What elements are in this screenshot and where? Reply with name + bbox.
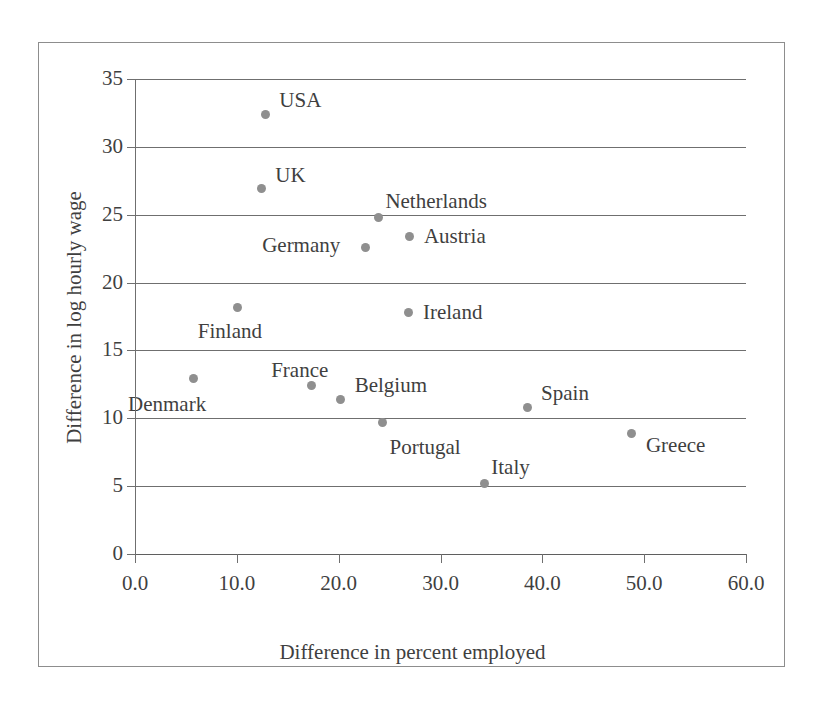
y-axis-title: Difference in log hourly wage <box>62 108 87 528</box>
x-tick-label-50: 50.0 <box>609 573 679 594</box>
y-tick-label-20: 20 <box>67 272 123 293</box>
y-axis-line <box>135 79 136 556</box>
data-point-label: Netherlands <box>385 191 486 212</box>
data-point-label: Belgium <box>355 375 427 396</box>
y-tick-label-10: 10 <box>67 407 123 428</box>
x-tick-label-0: 0.0 <box>100 573 170 594</box>
gridline-y-20 <box>135 283 746 284</box>
y-tick-15 <box>127 350 135 351</box>
x-tick-60 <box>746 554 747 563</box>
data-point <box>378 418 387 427</box>
y-tick-30 <box>127 147 135 148</box>
plot-area: USAUKNetherlandsAustriaGermanyIrelandFin… <box>135 79 746 554</box>
data-point-label: Spain <box>541 383 589 404</box>
data-point-label: Greece <box>646 435 705 456</box>
x-tick-label-10: 10.0 <box>202 573 272 594</box>
gridline-y-35 <box>135 79 746 80</box>
data-point-label: Germany <box>262 235 340 256</box>
x-tick-20 <box>339 554 340 563</box>
data-point <box>336 395 345 404</box>
y-tick-label-30: 30 <box>67 136 123 157</box>
data-point <box>257 184 266 193</box>
x-tick-label-20: 20.0 <box>304 573 374 594</box>
gridline-y-15 <box>135 350 746 351</box>
gridline-y-25 <box>135 215 746 216</box>
data-point-label: Finland <box>198 321 262 342</box>
data-point <box>307 381 316 390</box>
x-tick-40 <box>542 554 543 563</box>
x-tick-10 <box>237 554 238 563</box>
data-point <box>404 308 413 317</box>
data-point-label: UK <box>275 165 305 186</box>
x-tick-0 <box>135 554 136 563</box>
y-tick-5 <box>127 486 135 487</box>
data-point-label: Italy <box>491 457 529 478</box>
y-tick-label-5: 5 <box>67 475 123 496</box>
y-tick-0 <box>127 554 135 555</box>
data-point-label: Austria <box>424 226 486 247</box>
x-tick-label-40: 40.0 <box>507 573 577 594</box>
data-point-label: France <box>271 360 328 381</box>
data-point <box>361 243 370 252</box>
y-tick-label-0: 0 <box>67 543 123 564</box>
data-point <box>261 110 270 119</box>
gridline-y-5 <box>135 486 746 487</box>
data-point <box>189 374 198 383</box>
data-point-label: Ireland <box>423 302 482 323</box>
x-axis-title: Difference in percent employed <box>39 640 786 665</box>
data-point <box>480 479 489 488</box>
y-tick-label-25: 25 <box>67 204 123 225</box>
x-tick-30 <box>441 554 442 563</box>
chart-figure: Difference in log hourly wage USAUKNethe… <box>38 42 785 667</box>
data-point-label: USA <box>279 90 321 111</box>
data-point <box>523 403 532 412</box>
x-tick-label-30: 30.0 <box>406 573 476 594</box>
y-tick-10 <box>127 418 135 419</box>
data-point <box>233 303 242 312</box>
y-tick-label-15: 15 <box>67 339 123 360</box>
data-point <box>627 429 636 438</box>
x-tick-50 <box>644 554 645 563</box>
y-tick-25 <box>127 215 135 216</box>
x-tick-label-60: 60.0 <box>711 573 781 594</box>
y-tick-20 <box>127 283 135 284</box>
y-tick-35 <box>127 79 135 80</box>
data-point <box>405 232 414 241</box>
data-point <box>374 213 383 222</box>
gridline-y-10 <box>135 418 746 419</box>
y-tick-label-35: 35 <box>67 68 123 89</box>
data-point-label: Portugal <box>389 437 460 458</box>
data-point-label: Denmark <box>128 394 206 415</box>
gridline-y-30 <box>135 147 746 148</box>
